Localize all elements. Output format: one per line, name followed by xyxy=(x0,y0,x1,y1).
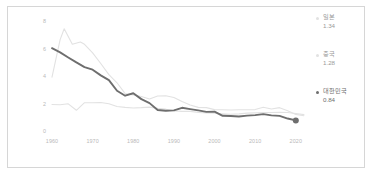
legend-series-name: 대한민국 xyxy=(323,88,347,94)
series-endpoint-marker xyxy=(293,117,299,123)
series-line-2 xyxy=(52,48,296,120)
legend-series-value: 0.84 xyxy=(323,97,335,103)
legend-series-name: 일본 xyxy=(323,14,335,20)
legend-marker-dot-icon xyxy=(316,54,319,57)
x-tick-label: 1970 xyxy=(82,139,104,144)
y-tick-label: 8 xyxy=(32,19,46,24)
y-tick-label: 0 xyxy=(32,129,46,134)
legend-marker-dot-icon xyxy=(316,17,319,20)
x-tick-label: 1980 xyxy=(122,139,144,144)
x-tick-label: 1960 xyxy=(41,139,63,144)
line-chart-svg xyxy=(0,0,374,178)
x-tick-label: 2010 xyxy=(244,139,266,144)
legend-marker-dot-icon xyxy=(316,91,319,94)
x-tick-label: 1990 xyxy=(163,139,185,144)
y-tick-label: 4 xyxy=(32,74,46,79)
legend-series-value: 1.34 xyxy=(323,23,335,29)
x-tick-label: 2020 xyxy=(285,139,307,144)
chart-figure: 86420 1960197019801990200020102020 일본1.3… xyxy=(0,0,374,178)
plot-area: 86420 1960197019801990200020102020 xyxy=(0,0,374,178)
legend-series-name: 중국 xyxy=(323,51,335,57)
legend-series-value: 1.28 xyxy=(323,60,335,66)
y-tick-label: 6 xyxy=(32,47,46,52)
x-tick-label: 2000 xyxy=(204,139,226,144)
y-tick-label: 2 xyxy=(32,102,46,107)
